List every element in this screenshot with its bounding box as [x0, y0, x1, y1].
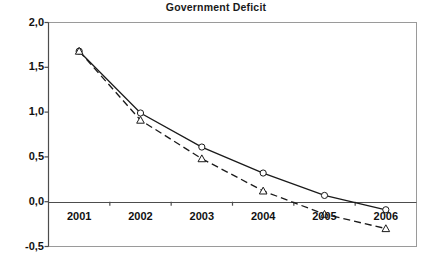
- chart-container: Government Deficit 2,01,51,00,50,0-0,5 2…: [0, 0, 432, 260]
- x-tick-label: 2003: [175, 211, 229, 222]
- x-tick-label: 2002: [114, 211, 168, 222]
- x-tick-label: 2006: [359, 211, 413, 222]
- x-tick-label: 2005: [298, 211, 352, 222]
- x-tick-label: 2004: [236, 211, 290, 222]
- x-tick-label: 2001: [52, 211, 106, 222]
- x-axis-labels: 200120022003200420052006: [0, 0, 432, 260]
